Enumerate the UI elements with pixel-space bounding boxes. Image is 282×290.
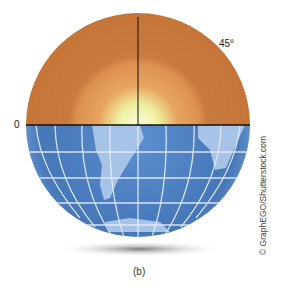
equator-label: 0 bbox=[14, 119, 20, 130]
angle-label: 45° bbox=[219, 38, 234, 49]
globe-diagram bbox=[0, 0, 282, 290]
lower-hemisphere-earth bbox=[20, 125, 260, 245]
globe-shadow bbox=[55, 241, 225, 257]
image-credit: © GraphEGO/Shutterstock.com bbox=[258, 136, 268, 255]
figure-caption: (b) bbox=[133, 266, 145, 277]
